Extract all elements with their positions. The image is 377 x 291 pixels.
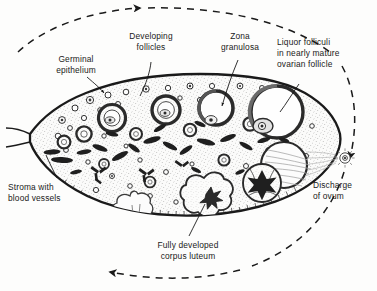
label-stroma-with-blood-vessels: Stroma with blood vessels xyxy=(8,182,61,203)
developing-follicles-line-1: Developing xyxy=(129,31,173,41)
zona-granulosa-line-2: granulosa xyxy=(221,42,259,52)
corpus-luteum-line-2: corpus luteum xyxy=(161,251,216,261)
stroma-line-1: Stroma with xyxy=(8,182,54,192)
developing-follicle-zona-granulosa xyxy=(199,91,233,125)
discharge-of-ovum-line-1: Discharge xyxy=(313,180,352,190)
corpus-luteum-mature xyxy=(180,172,233,216)
developing-follicles-line-2: follicles xyxy=(137,42,166,52)
cumulus-oophorus xyxy=(253,119,273,134)
germinal-epithelium-line-2: epithelium xyxy=(56,65,96,75)
developing-follicle xyxy=(76,126,91,141)
germinal-epithelium-line-1: Germinal xyxy=(58,54,93,64)
corpus-luteum-line-1: Fully developed xyxy=(158,240,219,250)
label-fully-developed-corpus-luteum: Fully developed corpus luteum xyxy=(158,240,219,261)
liquor-folliculi-line-3: ovarian follicle xyxy=(277,59,333,69)
liquor-folliculi-line-1: Liquor folliculi xyxy=(277,37,330,47)
zona-granulosa-line-1: Zona xyxy=(230,31,250,41)
ovary-cycle-diagram: Germinal epithelium Developing follicles… xyxy=(0,0,377,291)
developing-follicle xyxy=(218,154,229,165)
stroma-line-2: blood vessels xyxy=(8,193,61,203)
label-germinal-epithelium: Germinal epithelium xyxy=(56,54,96,75)
liquor-folliculi-line-2: in nearly mature xyxy=(277,48,340,58)
developing-follicle xyxy=(99,105,126,132)
developing-follicle xyxy=(152,96,180,124)
developing-follicle xyxy=(145,177,156,188)
discharge-of-ovum-line-2: of ovum xyxy=(313,191,344,201)
mature-ovarian-follicle xyxy=(250,86,303,138)
developing-follicle xyxy=(58,136,71,149)
developing-follicle xyxy=(184,124,196,136)
corpus-luteum-with-scar xyxy=(243,164,281,202)
developing-follicle xyxy=(130,128,142,140)
